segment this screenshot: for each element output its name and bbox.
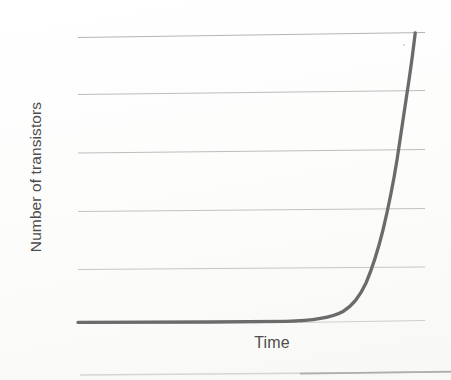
chart-container: Number of transistors Time [0, 0, 451, 380]
gridline-2 [78, 209, 425, 212]
gridline-4 [78, 91, 425, 95]
y-axis-label: Number of transistors [25, 77, 47, 277]
x-axis-label: Time [232, 332, 312, 354]
gridlines [78, 33, 425, 323]
exponential-curve [78, 33, 415, 322]
scan-speck-artifact [403, 44, 405, 46]
plot-area [0, 0, 451, 380]
scan-edge-artifact-dark [300, 372, 451, 374]
gridline-5 [78, 33, 425, 38]
gridline-3 [78, 150, 425, 154]
gridline-baseline [300, 321, 425, 323]
